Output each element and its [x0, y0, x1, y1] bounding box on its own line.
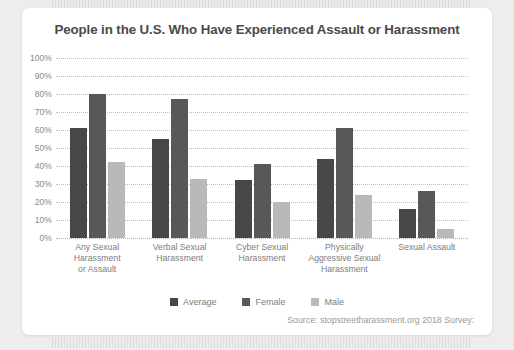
- legend-label: Male: [324, 297, 344, 307]
- legend-swatch-icon: [170, 298, 178, 306]
- chart-legend: AverageFemaleMale: [22, 297, 492, 307]
- y-axis-tick-label: 30%: [22, 179, 52, 189]
- gridline: [56, 76, 468, 77]
- y-axis-tick-label: 60%: [22, 125, 52, 135]
- bar: [190, 179, 207, 238]
- legend-item-male[interactable]: Male: [311, 297, 344, 307]
- y-axis-tick-label: 20%: [22, 197, 52, 207]
- bar: [399, 209, 416, 238]
- y-axis-tick-label: 80%: [22, 89, 52, 99]
- bar: [317, 159, 334, 238]
- bar: [89, 94, 106, 238]
- gridline: [56, 112, 468, 113]
- bar: [235, 180, 252, 238]
- bar: [437, 229, 454, 238]
- plot-area: 100%90%80%70%60%50%40%30%20%10%0%: [56, 58, 468, 238]
- bar: [273, 202, 290, 238]
- chart-card: People in the U.S. Who Have Experienced …: [22, 8, 492, 335]
- legend-label: Female: [255, 297, 285, 307]
- legend-label: Average: [183, 297, 216, 307]
- chart-title: People in the U.S. Who Have Experienced …: [22, 22, 492, 37]
- gridline: [56, 148, 468, 149]
- bar: [108, 162, 125, 238]
- y-axis-tick-label: 50%: [22, 143, 52, 153]
- source-note: Source: stopstreetharassment.org 2018 Su…: [287, 315, 474, 325]
- y-axis-tick-label: 10%: [22, 215, 52, 225]
- gridline: [56, 94, 468, 95]
- y-axis-tick-label: 70%: [22, 107, 52, 117]
- gridline: [56, 58, 468, 59]
- bar: [152, 139, 169, 238]
- bar: [418, 191, 435, 238]
- y-axis-tick-label: 40%: [22, 161, 52, 171]
- legend-swatch-icon: [242, 298, 250, 306]
- gridline: [56, 130, 468, 131]
- bar: [254, 164, 271, 238]
- bottom-edge-strip: [52, 338, 472, 348]
- y-axis-tick-label: 100%: [22, 53, 52, 63]
- legend-swatch-icon: [311, 298, 319, 306]
- bar: [336, 128, 353, 238]
- legend-item-average[interactable]: Average: [170, 297, 216, 307]
- y-axis-tick-label: 90%: [22, 71, 52, 81]
- bar: [171, 99, 188, 238]
- bar: [70, 128, 87, 238]
- legend-item-female[interactable]: Female: [242, 297, 285, 307]
- bar: [355, 195, 372, 238]
- axis-baseline: [56, 238, 468, 239]
- category-label: Sexual Assault: [378, 242, 476, 253]
